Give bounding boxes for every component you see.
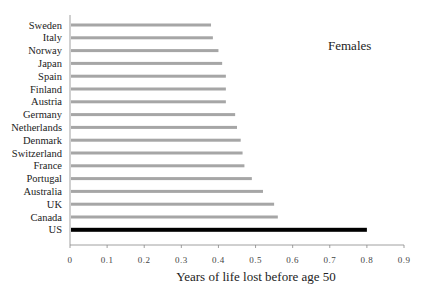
category-label: Portugal xyxy=(26,173,62,184)
x-tick-label: 0.1 xyxy=(101,255,114,265)
x-tick-label: 0.6 xyxy=(286,255,299,265)
category-label: Australia xyxy=(24,186,63,197)
category-labels: SwedenItalyNorwayJapanSpainFinlandAustri… xyxy=(11,20,62,236)
bar-canada xyxy=(71,216,278,219)
x-tick-label: 0.9 xyxy=(398,255,411,265)
x-tick-label: 0.4 xyxy=(212,255,225,265)
category-label: Denmark xyxy=(23,135,63,146)
x-tick-label: 0 xyxy=(68,255,73,265)
category-label: Italy xyxy=(43,32,63,43)
bar-finland xyxy=(71,88,226,91)
bar-denmark xyxy=(71,139,241,142)
category-label: France xyxy=(33,160,62,171)
category-label: Austria xyxy=(31,96,62,107)
category-label: Japan xyxy=(38,58,63,69)
bar-germany xyxy=(71,113,235,116)
x-tick-label: 0.8 xyxy=(361,255,374,265)
bar-us xyxy=(71,228,367,232)
bar-chart: SwedenItalyNorwayJapanSpainFinlandAustri… xyxy=(0,0,424,292)
bars xyxy=(71,24,367,232)
bar-austria xyxy=(71,100,226,103)
bar-italy xyxy=(71,36,213,39)
bar-australia xyxy=(71,190,263,193)
category-label: Canada xyxy=(31,212,63,223)
category-label: Netherlands xyxy=(11,122,62,133)
bar-spain xyxy=(71,75,226,78)
bar-japan xyxy=(71,62,222,65)
x-axis-label: Years of life lost before age 50 xyxy=(176,269,336,284)
series-annotation: Females xyxy=(328,38,371,53)
x-tick-label: 0.7 xyxy=(323,255,336,265)
bar-netherlands xyxy=(71,126,237,129)
category-label: US xyxy=(49,224,63,235)
x-tick-label: 0.3 xyxy=(175,255,188,265)
bar-switzerland xyxy=(71,152,243,155)
bar-sweden xyxy=(71,24,211,27)
category-label: Switzerland xyxy=(12,148,63,159)
category-label: Norway xyxy=(28,45,63,56)
bar-uk xyxy=(71,203,274,206)
x-tick-label: 0.5 xyxy=(249,255,262,265)
category-label: Germany xyxy=(23,109,63,120)
bar-france xyxy=(71,164,244,167)
x-tick-label: 0.2 xyxy=(138,255,151,265)
bar-norway xyxy=(71,49,218,52)
category-label: UK xyxy=(47,199,63,210)
bar-portugal xyxy=(71,177,252,180)
category-label: Finland xyxy=(30,84,63,95)
x-ticks: 00.10.20.30.40.50.60.70.80.9 xyxy=(68,245,411,265)
category-label: Sweden xyxy=(29,20,63,31)
category-label: Spain xyxy=(38,71,63,82)
